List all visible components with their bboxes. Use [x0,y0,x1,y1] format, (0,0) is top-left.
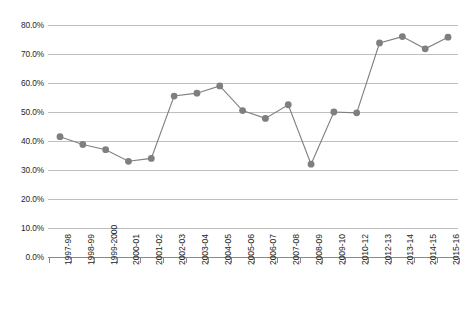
x-axis-tick-label: 1999-2000 [110,225,119,265]
x-axis-tick-label: 2000-01 [132,234,141,265]
x-axis-tick-label: 2003-04 [201,234,210,265]
x-axis-tick-label: 1997-98 [64,234,73,265]
y-axis: 0.0%10.0%20.0%30.0%40.0%50.0%60.0%70.0%8… [0,0,44,328]
y-axis-tick-label: 10.0% [0,224,44,232]
line-chart: 0.0%10.0%20.0%30.0%40.0%50.0%60.0%70.0%8… [0,0,467,328]
x-axis-tick-label: 2002-03 [178,234,187,265]
x-axis-tick-label: 2009-10 [338,234,347,265]
y-axis-tick-label: 60.0% [0,79,44,87]
x-axis-tick-label: 1998-99 [87,234,96,265]
x-axis-tick-label: 2015-16 [452,234,461,265]
y-axis-tick-label: 80.0% [0,21,44,29]
x-axis-tick-label: 2004-05 [224,234,233,265]
y-axis-tick-label: 70.0% [0,50,44,58]
x-axis-tick-label: 2014-15 [429,234,438,265]
y-axis-tick-label: 50.0% [0,108,44,116]
x-axis-tick-label: 2013-14 [406,234,415,265]
x-axis-tick-label: 2007-08 [292,234,301,265]
x-axis-tick-label: 2012-13 [384,234,393,265]
y-axis-tick-label: 40.0% [0,137,44,145]
y-axis-tick-label: 30.0% [0,166,44,174]
x-axis-tick-label: 2010-12 [361,234,370,265]
x-axis-tick-label: 2001-02 [155,234,164,265]
x-axis-tick-label: 2005-06 [247,234,256,265]
y-axis-tick-label: 20.0% [0,195,44,203]
x-axis: 1997-981998-991999-20002000-012001-02200… [48,0,458,328]
y-axis-tick-label: 0.0% [0,253,44,261]
x-axis-tick-label: 2008-09 [315,234,324,265]
x-axis-tick-label: 2006-07 [269,234,278,265]
